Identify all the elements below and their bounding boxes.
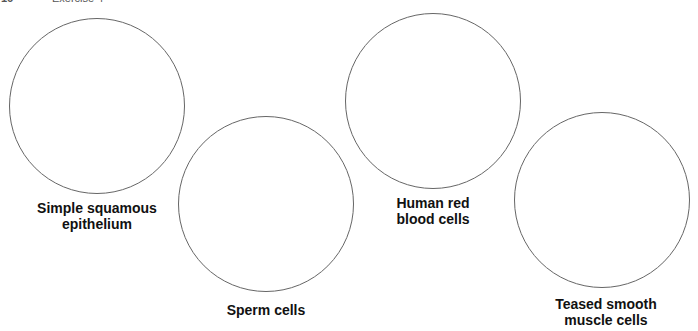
- section-title: Exercise 4: [52, 0, 162, 4]
- drawing-circle-sperm-cells: [178, 116, 354, 292]
- circle-label-smooth-muscle: Teased smooth muscle cells: [526, 296, 686, 328]
- circle-label-red-blood-cells: Human red blood cells: [353, 195, 513, 227]
- drawing-circle-simple-squamous: [9, 18, 185, 194]
- page-number: 16: [1, 0, 13, 4]
- drawing-circle-red-blood-cells: [345, 13, 521, 189]
- circle-label-simple-squamous: Simple squamous epithelium: [17, 200, 177, 232]
- drawing-circle-smooth-muscle: [514, 112, 690, 288]
- circle-label-sperm-cells: Sperm cells: [186, 302, 346, 318]
